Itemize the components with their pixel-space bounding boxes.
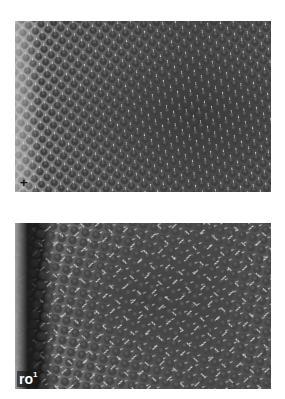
- ommatidia-pattern-regular: [15, 21, 271, 192]
- allele-superscript: 1: [33, 370, 37, 379]
- genotype-label-mutant: ro1: [17, 371, 39, 387]
- micrograph-panel-rough-mutant: ro1: [15, 223, 271, 389]
- genotype-label-wildtype: +: [20, 176, 28, 189]
- genotype-label-base: ro: [19, 371, 33, 387]
- ommatidia-pattern-disordered: [15, 223, 271, 389]
- micrograph-panel-wildtype: +: [15, 21, 271, 192]
